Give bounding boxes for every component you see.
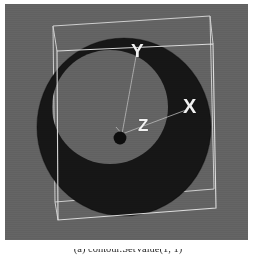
vtk-render-window[interactable]: X Y Z	[5, 4, 248, 240]
figure-caption: (a) contour.SetValue(1, 1)	[0, 249, 256, 259]
figure-caption-text: (a) contour.SetValue(1, 1)	[0, 249, 256, 254]
axis-label-x: X	[183, 96, 196, 116]
origin-dot	[114, 132, 127, 145]
figure-page: X Y Z (a) contour.SetValue(1, 1)	[0, 0, 256, 259]
scene-svg	[5, 4, 248, 240]
axis-label-z: Z	[138, 117, 148, 134]
axis-label-y: Y	[131, 41, 144, 60]
contour-isosurface	[5, 4, 248, 240]
